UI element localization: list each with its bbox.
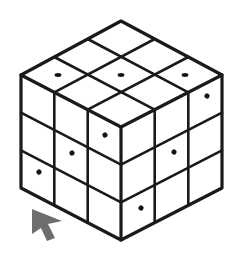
- isometric-cube-figure: [0, 0, 244, 254]
- dot-top-left: [55, 73, 62, 77]
- dot-top-center: [118, 73, 125, 77]
- dot-top-right: [182, 73, 189, 77]
- cursor-arrow-icon[interactable]: [32, 209, 62, 241]
- drawing-canvas: [0, 0, 244, 254]
- mouse-pointer[interactable]: [32, 209, 62, 241]
